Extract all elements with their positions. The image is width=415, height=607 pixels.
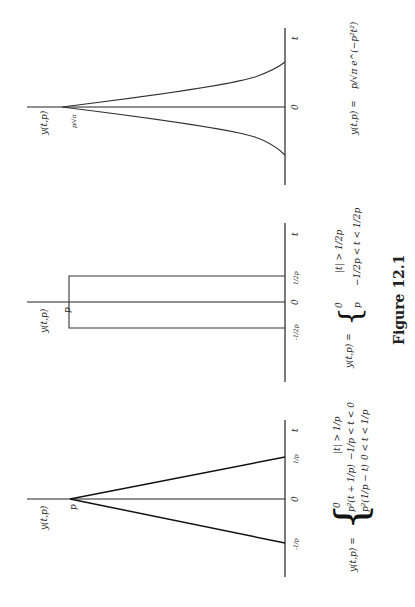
neg-half-inv-p-tick: -1/2p <box>292 324 300 340</box>
peak-label: p <box>62 307 72 313</box>
half-inv-p-tick: 1/2p <box>292 271 300 285</box>
zero-tick: 0 <box>290 496 300 502</box>
case-2-condition: −1/p < t < 0 <box>346 402 356 460</box>
case-2-value: p <box>352 302 362 308</box>
t-label: t <box>290 428 300 432</box>
case-1-value: 0 <box>334 302 344 308</box>
y-axis-label: y(t,p) <box>39 505 49 531</box>
triangular-plot: y(t,p) p 0 -1/p 1/p t y(t,p) = { 0 p²(t … <box>27 402 376 577</box>
zero-tick: 0 <box>290 104 300 110</box>
case-1-condition: |t| > 1/p <box>332 416 343 454</box>
equation-lhs: y(t,p) = <box>348 537 358 573</box>
case-2-value: p²(t + 1/p) <box>346 464 356 512</box>
equation-lhs: y(t,p) = <box>349 100 359 136</box>
equation-lhs: y(t,p) = <box>344 333 354 369</box>
case-3-value: p²(1/p − t) <box>360 464 370 512</box>
figure-caption: Figure 12.1 <box>391 255 407 345</box>
triangle-pulse <box>70 457 285 543</box>
equation-rhs: p/√π e^(−p²t²) <box>349 21 359 89</box>
gaussian-plot: y(t,p) p/√π 0 t y(t,p) = p/√π e^(−p²t²) <box>27 21 359 185</box>
y-axis-label: y(t,p) <box>39 308 49 334</box>
case-3-condition: 0 < t < 1/p <box>360 409 370 460</box>
t-label: t <box>290 232 300 236</box>
case-2-condition: −1/2p < t < 1/2p <box>352 208 362 286</box>
left-brace: { <box>332 307 367 326</box>
rectangular-equation: y(t,p) = { 0 p |t| > 1/2p −1/2p < t < 1/… <box>332 208 367 369</box>
rectangular-plot: y(t,p) p 0 -1/2p 1/2p t y(t,p) = { 0 p |… <box>27 208 367 382</box>
peak-label: p <box>68 504 78 510</box>
zero-tick: 0 <box>290 299 300 305</box>
t-label: t <box>290 36 300 40</box>
gaussian-equation: y(t,p) = p/√π e^(−p²t²) <box>349 21 359 136</box>
neg-inv-p-tick: -1/p <box>292 538 300 550</box>
peak-label: p/√π <box>70 113 78 128</box>
gaussian-curve <box>62 62 285 155</box>
inv-p-tick: 1/p <box>292 454 300 464</box>
figure-12-1: y(t,p) p/√π 0 t y(t,p) = p/√π e^(−p²t²) … <box>0 0 415 607</box>
case-1-condition: |t| > 1/2p <box>334 230 345 273</box>
triangular-equation: y(t,p) = { 0 p²(t + 1/p) p²(1/p − t) |t|… <box>327 402 376 573</box>
case-1-value: 0 <box>332 502 342 508</box>
y-axis-label: y(t,p) <box>39 110 49 136</box>
